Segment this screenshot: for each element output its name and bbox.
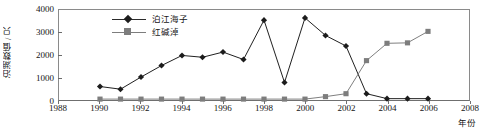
x-tick-mark [223, 101, 224, 104]
data-point-1 [241, 97, 246, 102]
legend-label-0: 泊江海子 [152, 13, 188, 26]
x-tick-label: 2008 [450, 103, 488, 113]
data-point-1 [159, 97, 164, 102]
x-tick-mark [58, 101, 59, 104]
x-tick-label: 2000 [285, 103, 325, 113]
data-point-0 [179, 52, 185, 58]
chart-legend: 泊江海子 红碱淖 [112, 13, 188, 39]
x-axis-title: 年份 [458, 116, 476, 128]
x-tick-mark [305, 101, 306, 104]
data-point-1 [343, 91, 348, 96]
legend-item-1: 红碱淖 [112, 26, 188, 39]
square-marker-icon [112, 32, 146, 33]
x-tick-label: 1988 [38, 103, 78, 113]
x-axis-tick-labels: 1988199019921994199619982000200220042006… [0, 103, 488, 119]
data-point-0 [97, 83, 103, 89]
y-tick-label: 1000 [20, 74, 54, 83]
x-tick-mark [388, 101, 389, 104]
data-point-0 [404, 96, 410, 102]
data-point-1 [405, 40, 410, 45]
x-tick-mark [140, 101, 141, 104]
x-tick-label: 1994 [162, 103, 202, 113]
x-tick-mark [99, 101, 100, 104]
data-point-1 [364, 58, 369, 63]
x-tick-mark [346, 101, 347, 104]
x-tick-label: 2004 [368, 103, 408, 113]
x-tick-label: 1998 [244, 103, 284, 113]
y-tick-label: 3000 [20, 28, 54, 37]
y-tick-label: 2000 [20, 51, 54, 60]
y-tick-mark [58, 32, 62, 33]
x-tick-label: 1992 [120, 103, 160, 113]
x-tick-mark [264, 101, 265, 104]
data-point-1 [425, 29, 430, 34]
data-point-0 [138, 74, 144, 80]
y-tick-mark [58, 78, 62, 79]
data-point-0 [240, 56, 246, 62]
x-tick-mark [429, 101, 430, 104]
x-tick-label: 1996 [203, 103, 243, 113]
data-point-1 [323, 94, 328, 99]
x-tick-label: 1990 [79, 103, 119, 113]
x-tick-mark [182, 101, 183, 104]
data-point-1 [200, 97, 205, 102]
x-tick-mark [470, 101, 471, 104]
data-point-1 [118, 97, 123, 102]
y-tick-label: 4000 [20, 5, 54, 14]
legend-item-0: 泊江海子 [112, 13, 188, 26]
data-point-0 [117, 86, 123, 92]
data-point-0 [281, 79, 287, 85]
series-line-1 [100, 31, 428, 99]
data-point-0 [220, 49, 226, 55]
chart-container: 泊湖数值 / 只 01000200030004000 1988199019921… [0, 0, 488, 133]
y-axis-title: 泊湖数值 / 只 [1, 6, 15, 98]
x-tick-label: 2002 [326, 103, 366, 113]
data-point-0 [363, 91, 369, 97]
data-point-0 [261, 17, 267, 23]
data-point-0 [343, 43, 349, 49]
data-point-1 [384, 41, 389, 46]
data-point-1 [282, 97, 287, 102]
y-tick-mark [58, 55, 62, 56]
data-point-0 [199, 54, 205, 60]
x-tick-label: 2006 [409, 103, 449, 113]
data-point-0 [158, 63, 164, 69]
diamond-marker-icon [112, 19, 146, 20]
legend-label-1: 红碱淖 [152, 26, 179, 39]
